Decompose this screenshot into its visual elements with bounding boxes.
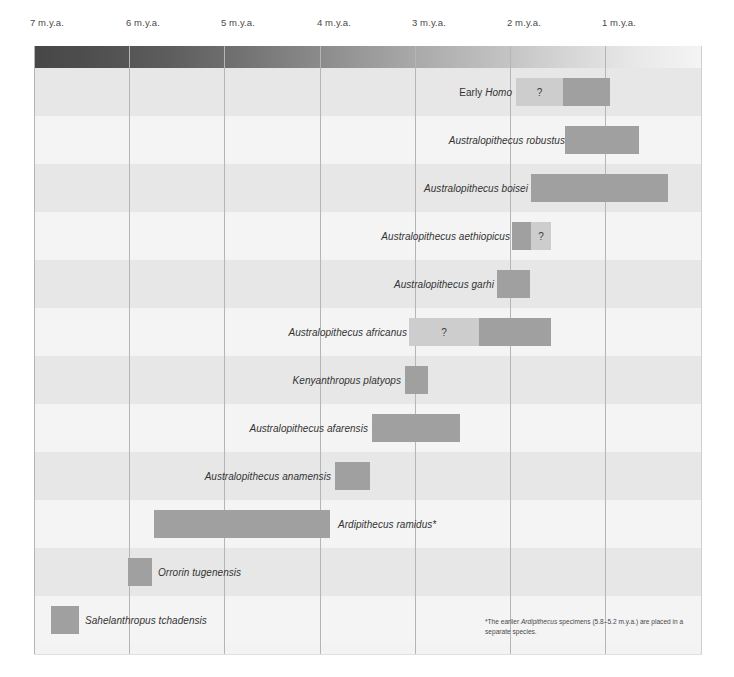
range-bar-australopithecus-afarensis[interactable] (372, 414, 460, 442)
species-label-early-homo-genus: Homo (485, 87, 512, 98)
species-row-australopithecus-afarensis[interactable]: Australopithecus afarensis (0, 404, 734, 452)
species-label-ardipithecus-ramidus: Ardipithecus ramidus* (338, 519, 436, 530)
range-bar-sahelanthropus-tchadensis[interactable] (51, 606, 79, 634)
species-label-australopithecus-garhi: Australopithecus garhi (394, 279, 494, 290)
species-row-australopithecus-garhi[interactable]: Australopithecus garhi (0, 260, 734, 308)
uncertainty-question-mark: ? (531, 231, 551, 242)
axis-tick-1mya: 1 m.y.a. (602, 17, 636, 28)
axis-tick-6mya: 6 m.y.a. (126, 17, 160, 28)
species-row-orrorin-tugenensis[interactable]: Orrorin tugenensis (0, 548, 734, 596)
species-label-australopithecus-afarensis: Australopithecus afarensis (249, 423, 368, 434)
species-label-kenyanthropus-platyops: Kenyanthropus platyops (293, 375, 401, 386)
x-axis-tick-labels: 7 m.y.a. 6 m.y.a. 5 m.y.a. 4 m.y.a. 3 m.… (0, 17, 734, 35)
footnote-genus: Ardipithecus (521, 618, 557, 625)
range-bar-australopithecus-africanus-uncertain[interactable]: ? (409, 318, 479, 346)
hominin-timeline-chart: 7 m.y.a. 6 m.y.a. 5 m.y.a. 4 m.y.a. 3 m.… (0, 0, 734, 677)
species-label-early-homo-prefix: Early (459, 87, 485, 98)
species-label-australopithecus-anamensis: Australopithecus anamensis (205, 471, 331, 482)
axis-tick-5mya: 5 m.y.a. (221, 17, 255, 28)
axis-tick-4mya: 4 m.y.a. (317, 17, 351, 28)
species-label-australopithecus-aethiopicus: Australopithecus aethiopicus (381, 231, 510, 242)
range-bar-australopithecus-aethiopicus-uncertain[interactable]: ? (531, 222, 551, 250)
species-row-australopithecus-aethiopicus[interactable]: Australopithecus aethiopicus ? (0, 212, 734, 260)
range-bar-early-homo-uncertain[interactable]: ? (516, 78, 563, 106)
species-label-sahelanthropus-tchadensis: Sahelanthropus tchadensis (85, 615, 207, 626)
ardipithecus-footnote: *The earlier Ardipithecus specimens (5.8… (485, 617, 700, 637)
axis-tick-2mya: 2 m.y.a. (507, 17, 541, 28)
plot-bottom-edge (34, 654, 702, 655)
uncertainty-question-mark: ? (516, 87, 563, 98)
time-gradient-band (34, 46, 702, 68)
range-bar-australopithecus-anamensis[interactable] (335, 462, 370, 490)
range-bar-australopithecus-robustus[interactable] (565, 126, 639, 154)
range-bar-early-homo[interactable] (563, 78, 610, 106)
axis-tick-3mya: 3 m.y.a. (412, 17, 446, 28)
species-row-kenyanthropus-platyops[interactable]: Kenyanthropus platyops (0, 356, 734, 404)
species-label-australopithecus-boisei: Australopithecus boisei (424, 183, 528, 194)
range-bar-kenyanthropus-platyops[interactable] (405, 366, 428, 394)
range-bar-australopithecus-garhi[interactable] (497, 270, 530, 298)
species-row-australopithecus-boisei[interactable]: Australopithecus boisei (0, 164, 734, 212)
uncertainty-question-mark: ? (409, 327, 479, 338)
species-row-ardipithecus-ramidus[interactable]: Ardipithecus ramidus* (0, 500, 734, 548)
species-row-australopithecus-africanus[interactable]: Australopithecus africanus ? (0, 308, 734, 356)
species-label-orrorin-tugenensis: Orrorin tugenensis (158, 567, 241, 578)
footnote-lead: *The earlier (485, 618, 521, 625)
species-label-australopithecus-robustus: Australopithecus robustus (449, 135, 565, 146)
range-bar-australopithecus-aethiopicus[interactable] (512, 222, 531, 250)
range-bar-ardipithecus-ramidus[interactable] (154, 510, 330, 538)
range-bar-australopithecus-boisei[interactable] (531, 174, 668, 202)
range-bar-orrorin-tugenensis[interactable] (128, 558, 152, 586)
species-label-early-homo: Early Homo (459, 87, 512, 98)
species-label-australopithecus-africanus: Australopithecus africanus (288, 327, 407, 338)
range-bar-australopithecus-africanus[interactable] (479, 318, 551, 346)
species-row-early-homo[interactable]: Early Homo ? (0, 68, 734, 116)
axis-tick-7mya: 7 m.y.a. (30, 17, 64, 28)
species-row-australopithecus-anamensis[interactable]: Australopithecus anamensis (0, 452, 734, 500)
species-row-australopithecus-robustus[interactable]: Australopithecus robustus (0, 116, 734, 164)
